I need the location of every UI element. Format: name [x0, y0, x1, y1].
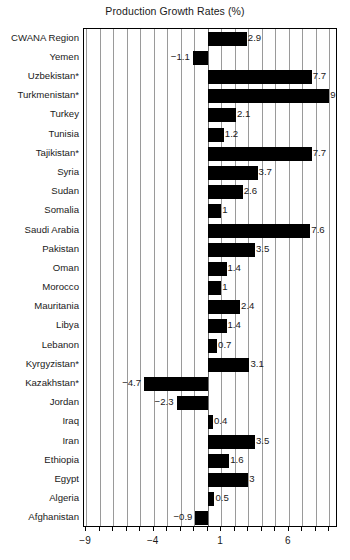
- bar-value-label: 1.6: [230, 454, 243, 465]
- bar-value-label: 2.6: [244, 185, 257, 196]
- category-label: Iraq: [0, 415, 79, 426]
- x-tick-mark: [288, 527, 289, 531]
- x-tick-mark: [261, 527, 262, 531]
- x-tick-mark: [139, 527, 140, 531]
- bar: [208, 108, 236, 122]
- gridline: [329, 29, 330, 526]
- category-label: CWANA Region: [0, 32, 79, 43]
- x-tick-mark: [315, 527, 316, 531]
- bar: [208, 358, 250, 372]
- bar: [208, 339, 217, 353]
- x-tick-mark: [153, 527, 154, 531]
- category-label: Iran: [0, 435, 79, 446]
- bar: [208, 454, 230, 468]
- category-label: Turkmenistan*: [0, 89, 79, 100]
- bar-value-label: 3.7: [259, 166, 272, 177]
- bar-value-label: 7.6: [311, 224, 324, 235]
- gridline: [167, 29, 168, 526]
- production-growth-rates-chart: Production Growth Rates (%) CWANA Region…: [0, 0, 350, 560]
- category-label: Saudi Arabia: [0, 224, 79, 235]
- plot-area: [83, 28, 337, 527]
- bar: [208, 70, 312, 84]
- bar: [177, 396, 208, 410]
- gridline: [316, 29, 317, 526]
- chart-title: Production Growth Rates (%): [0, 5, 350, 17]
- bar: [193, 51, 208, 65]
- category-label: Pakistan: [0, 243, 79, 254]
- gridline: [86, 29, 87, 526]
- bar: [208, 492, 215, 506]
- bar-value-label: 1: [222, 204, 227, 215]
- category-label: Tunisia: [0, 128, 79, 139]
- bar: [208, 89, 330, 103]
- bar-value-label: 3.5: [256, 435, 269, 446]
- category-label: Algeria: [0, 492, 79, 503]
- bar-value-label: −0.9: [0, 511, 192, 522]
- bar: [208, 166, 258, 180]
- category-label: Libya: [0, 319, 79, 330]
- bar: [144, 377, 208, 391]
- bar: [208, 243, 255, 257]
- bar-value-label: 3: [249, 473, 254, 484]
- zero-gridline: [208, 29, 209, 526]
- bar: [208, 281, 222, 295]
- category-label: Sudan: [0, 185, 79, 196]
- bar: [208, 473, 249, 487]
- x-tick-mark: [274, 527, 275, 531]
- bar-value-label: 7.7: [313, 70, 326, 81]
- x-tick-mark: [247, 527, 248, 531]
- x-tick-mark: [301, 527, 302, 531]
- bar-value-label: 0.7: [218, 339, 231, 350]
- gridline: [235, 29, 236, 526]
- bar: [208, 224, 311, 238]
- bar: [208, 415, 213, 429]
- x-tick-mark: [85, 527, 86, 531]
- bar-value-label: 3.1: [251, 358, 264, 369]
- gridline: [275, 29, 276, 526]
- x-tick-mark: [180, 527, 181, 531]
- x-tick-mark: [166, 527, 167, 531]
- category-label: Uzbekistan*: [0, 70, 79, 81]
- bar-value-label: 3.5: [256, 243, 269, 254]
- category-label: Turkey: [0, 108, 79, 119]
- bar: [208, 435, 255, 449]
- bar: [208, 147, 312, 161]
- category-label: Kyrgyzistan*: [0, 358, 79, 369]
- x-tick-mark: [207, 527, 208, 531]
- bar-value-label: 2.4: [241, 300, 254, 311]
- category-label: Morocco: [0, 281, 79, 292]
- gridline: [127, 29, 128, 526]
- x-tick-mark: [328, 527, 329, 531]
- gridline: [262, 29, 263, 526]
- gridline: [140, 29, 141, 526]
- category-label: Lebanon: [0, 339, 79, 350]
- bar-value-label: 1: [222, 281, 227, 292]
- gridline: [100, 29, 101, 526]
- x-tick-mark: [99, 527, 100, 531]
- category-label: Tajikistan*: [0, 147, 79, 158]
- bar-value-label: −1.1: [0, 51, 190, 62]
- category-label: Ethiopia: [0, 454, 79, 465]
- bar: [208, 300, 240, 314]
- bar: [208, 262, 227, 276]
- gridline: [154, 29, 155, 526]
- bar: [195, 511, 207, 525]
- bar: [208, 32, 247, 46]
- x-tick-mark: [193, 527, 194, 531]
- bar-value-label: 1.2: [225, 128, 238, 139]
- bar-value-label: 2.9: [248, 32, 261, 43]
- bar-value-label: 2.1: [237, 108, 250, 119]
- bar-value-label: −2.3: [0, 396, 174, 407]
- category-axis-labels: CWANA RegionYemenUzbekistan*Turkmenistan…: [0, 28, 79, 527]
- x-tick-mark: [126, 527, 127, 531]
- gridline: [248, 29, 249, 526]
- category-label: Mauritania: [0, 300, 79, 311]
- x-tick-label: −4: [147, 535, 158, 546]
- bar-value-label: 1.4: [228, 319, 241, 330]
- x-tick-mark: [234, 527, 235, 531]
- bar: [208, 204, 222, 218]
- gridline: [289, 29, 290, 526]
- x-tick-mark: [220, 527, 221, 531]
- bar: [208, 319, 227, 333]
- bar: [208, 185, 243, 199]
